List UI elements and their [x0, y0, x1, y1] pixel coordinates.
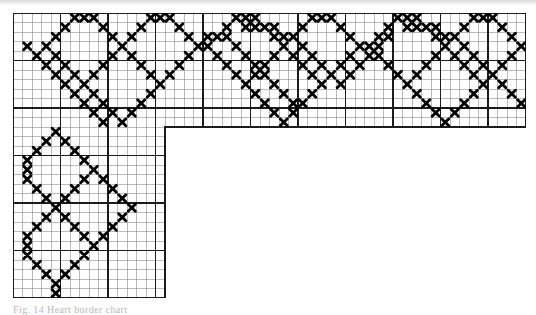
stitch-cell — [442, 119, 449, 126]
stitch-cell — [261, 24, 268, 31]
stitch-cell — [90, 242, 97, 249]
stitch-cell — [185, 52, 192, 59]
figure-caption: Fig. 14 Heart border chart — [13, 304, 128, 315]
stitch-cell — [480, 14, 487, 21]
stitch-cell — [24, 176, 31, 183]
stitch-cell — [71, 185, 78, 192]
stitch-cell — [252, 24, 259, 31]
stitch-cell — [233, 43, 240, 50]
stitch-cell — [432, 33, 439, 40]
stitch-cell — [280, 43, 287, 50]
stitch-cell — [451, 52, 458, 59]
stitch-cell — [81, 176, 88, 183]
stitch-cell — [271, 52, 278, 59]
stitch-cell — [252, 90, 259, 97]
stitch-cell — [62, 81, 69, 88]
stitch-cell — [290, 109, 297, 116]
stitch-cell — [499, 81, 506, 88]
stitch-cell — [328, 14, 335, 21]
stitch-cell — [100, 62, 107, 69]
stitch-cell — [81, 157, 88, 164]
stitch-cell — [470, 52, 477, 59]
stitch-cell — [356, 43, 363, 50]
stitch-cell — [375, 33, 382, 40]
stitch-cell — [128, 33, 135, 40]
stitch-cell — [480, 81, 487, 88]
stitch-cell — [90, 71, 97, 78]
stitch-cell — [461, 100, 468, 107]
stitch-cell — [62, 214, 69, 221]
stitch-cell — [204, 33, 211, 40]
stitch-cell — [404, 24, 411, 31]
stitch-cell — [470, 14, 477, 21]
stitch-cell — [385, 62, 392, 69]
stitch-cell — [309, 90, 316, 97]
stitch-cell — [100, 24, 107, 31]
stitch-cell — [138, 24, 145, 31]
stitch-cell — [271, 24, 278, 31]
stitch-cell — [261, 100, 268, 107]
stitch-cell — [33, 261, 40, 268]
stitch-cell — [242, 24, 249, 31]
stitch-cell — [432, 52, 439, 59]
stitch-cell — [71, 147, 78, 154]
stitch-cell — [157, 14, 164, 21]
stitch-cell — [157, 81, 164, 88]
stitch-cell — [337, 81, 344, 88]
stitch-cell — [451, 109, 458, 116]
stitch-cell — [147, 90, 154, 97]
stitch-cell — [81, 81, 88, 88]
stitch-cell — [261, 71, 268, 78]
stitch-cell — [394, 14, 401, 21]
stitch-cell — [318, 62, 325, 69]
stitch-cell — [119, 43, 126, 50]
stitch-cell — [204, 43, 211, 50]
stitch-cell — [394, 71, 401, 78]
stitch-cell — [347, 71, 354, 78]
stitch-cell — [223, 62, 230, 69]
stitch-cell — [147, 14, 154, 21]
stitch-cell — [33, 223, 40, 230]
stitch-cell — [290, 52, 297, 59]
stitch-cell — [508, 90, 515, 97]
stitch-cell — [43, 214, 50, 221]
stitch-cell — [81, 14, 88, 21]
stitch-cell — [195, 43, 202, 50]
stitch-cell — [71, 71, 78, 78]
stitch-cell — [461, 62, 468, 69]
stitch-cell — [109, 33, 116, 40]
stitch-cell — [24, 157, 31, 164]
stitch-cell — [271, 81, 278, 88]
stitch-cell — [176, 24, 183, 31]
stitch-cell — [52, 290, 59, 297]
stitch-cell — [90, 14, 97, 21]
stitch-cell — [81, 233, 88, 240]
stitch-cell — [299, 62, 306, 69]
stitch-cell — [100, 176, 107, 183]
stitch-cell — [290, 33, 297, 40]
stitch-cell — [81, 100, 88, 107]
stitch-cell — [337, 24, 344, 31]
stitch-cell — [489, 14, 496, 21]
stitch-cell — [100, 119, 107, 126]
stitch-cell — [261, 62, 268, 69]
stitch-cell — [413, 71, 420, 78]
stitch-cell — [461, 43, 468, 50]
stitch-cell — [52, 33, 59, 40]
stitch-cell — [138, 100, 145, 107]
stitch-cell — [52, 52, 59, 59]
stitch-cell — [470, 71, 477, 78]
stitch-cell — [461, 24, 468, 31]
cross-stitch-grid-svg — [13, 13, 526, 298]
stitch-cell — [138, 62, 145, 69]
stitch-cell — [271, 109, 278, 116]
stitch-cell — [43, 271, 50, 278]
stitch-cell — [33, 147, 40, 154]
stitch-cell — [309, 14, 316, 21]
scanned-page-edge — [0, 0, 536, 6]
stitch-cell — [71, 14, 78, 21]
stitch-cell — [242, 52, 249, 59]
stitch-cell — [233, 14, 240, 21]
stitch-cell — [147, 71, 154, 78]
stitch-cell — [52, 128, 59, 135]
